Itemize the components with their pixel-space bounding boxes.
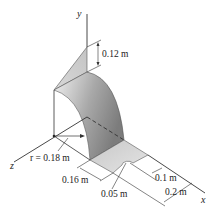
dim-016-ext2 <box>100 173 113 181</box>
dim-016-ext <box>77 160 90 168</box>
hole-radius-label: 0.05 m <box>101 189 128 199</box>
hole-offset-label: 0.1 m <box>155 173 177 183</box>
y-axis-label: y <box>76 8 82 19</box>
plate-width-label: 0.2 m <box>165 187 187 197</box>
dim-arrowhead <box>97 62 100 66</box>
plate-length-label: 0.16 m <box>62 175 89 185</box>
radius-label: r = 0.18 m <box>30 153 70 163</box>
z-axis-label: z <box>9 160 14 171</box>
composite-sheet-diagram: y z x 0.12 m r = 0.18 m 0.16 m 0.05 m 0.… <box>0 0 219 212</box>
x-axis-label: x <box>200 194 206 205</box>
dim-arrowhead <box>97 42 100 46</box>
height-dimension-label: 0.12 m <box>102 49 129 59</box>
dim-012-ext-bottom <box>87 65 101 72</box>
radius-arrowhead <box>80 134 85 138</box>
dim-01-ext <box>130 163 156 180</box>
